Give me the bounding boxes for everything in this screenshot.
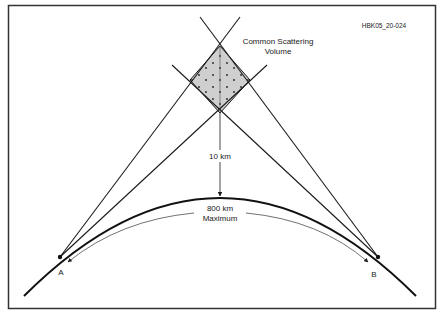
point-a-label: A [58, 268, 64, 277]
distance-label-1: 800 km [207, 204, 234, 213]
figure-id: HBK05_20-024 [362, 22, 407, 30]
distance-label-2: Maximum [203, 214, 238, 223]
scatter-propagation-diagram: HBK05_20-024 10 km Common Scattering Vol… [0, 0, 443, 315]
scattering-volume-label-2: Volume [265, 47, 292, 56]
point-b-marker [376, 255, 380, 259]
point-b-label: B [371, 270, 376, 279]
ray-a-inner [60, 65, 267, 257]
scattering-volume-label-1: Common Scattering [243, 37, 314, 46]
ray-b-inner [172, 65, 378, 257]
height-label: 10 km [209, 152, 231, 161]
point-a-marker [58, 255, 62, 259]
distance-arc-right [246, 213, 368, 262]
